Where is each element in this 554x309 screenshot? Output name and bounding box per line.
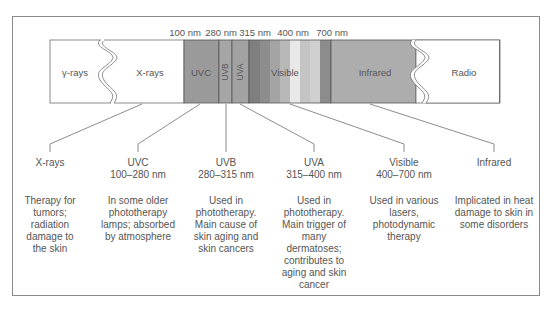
column-desc: Implicated in heat damage to skin in som… <box>452 195 536 231</box>
column-desc: Used in phototherapy. Main cause of skin… <box>193 195 259 255</box>
column-uva: UVA 315–400 nm Used in phototherapy. Mai… <box>268 157 360 291</box>
tick-315nm: 315 nm <box>239 27 271 38</box>
column-range: 315–400 nm <box>268 169 360 181</box>
band-label-uva: UVA <box>235 64 245 81</box>
column-infrared: Infrared Implicated in heat damage to sk… <box>448 157 540 231</box>
column-name: UVC <box>92 157 184 169</box>
column-name: X-rays <box>4 157 96 169</box>
band-label-visible: Visible <box>271 67 299 78</box>
column-desc: Used in various lasers, photodynamic the… <box>369 195 439 243</box>
column-desc: In some older phototherapy lamps; absorb… <box>101 195 175 243</box>
band-label-uvb: UVB <box>220 63 230 80</box>
tick-700nm: 700 nm <box>316 27 348 38</box>
column-desc: Used in phototherapy. Main trigger of ma… <box>281 195 347 291</box>
tick-100nm: 100 nm <box>169 27 201 38</box>
tick-400nm: 400 nm <box>277 27 309 38</box>
column-visible: Visible 400–700 nm Used in various laser… <box>358 157 450 243</box>
band-label-radio: Radio <box>452 67 477 78</box>
column-range: 100–280 nm <box>92 169 184 181</box>
column-name: UVB <box>180 157 272 169</box>
band-label-infrared: Infrared <box>359 67 392 78</box>
column-range: 400–700 nm <box>358 169 450 181</box>
column-xrays: X-rays Therapy for tumors; radiation dam… <box>4 157 96 255</box>
band-label-gamma: γ-rays <box>62 67 88 78</box>
column-name: UVA <box>268 157 360 169</box>
column-desc: Therapy for tumors; radiation damage to … <box>19 195 81 255</box>
band-label-uvc: UVC <box>191 67 211 78</box>
column-name: Visible <box>358 157 450 169</box>
band-label-xrays: X-rays <box>136 67 163 78</box>
column-uvc: UVC 100–280 nm In some older phototherap… <box>92 157 184 243</box>
column-name: Infrared <box>448 157 540 169</box>
column-range: 280–315 nm <box>180 169 272 181</box>
column-uvb: UVB 280–315 nm Used in phototherapy. Mai… <box>180 157 272 255</box>
column-range <box>4 169 96 181</box>
tick-280nm: 280 nm <box>205 27 237 38</box>
leader-lines <box>50 104 494 152</box>
column-range <box>448 169 540 181</box>
